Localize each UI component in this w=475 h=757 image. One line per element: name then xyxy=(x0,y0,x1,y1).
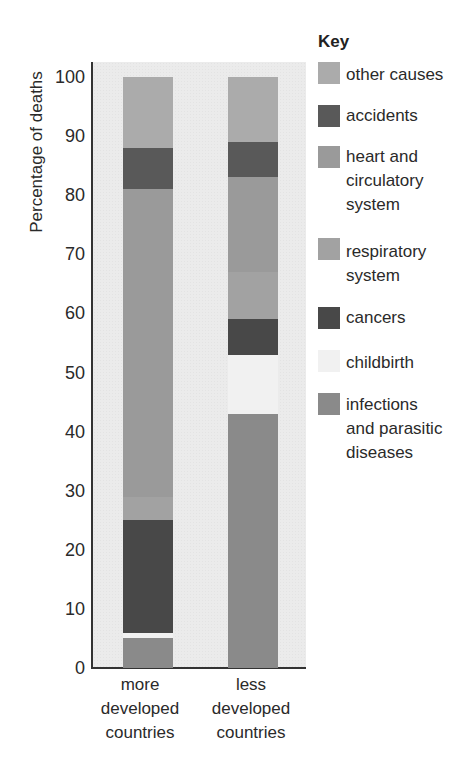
legend-swatch-accidents xyxy=(318,105,340,127)
y-tick-label: 100 xyxy=(45,67,85,87)
legend-swatch-other-causes xyxy=(318,62,340,84)
y-tick-label: 90 xyxy=(45,126,85,146)
bar-segment-childbirth xyxy=(228,355,278,414)
y-tick-label: 70 xyxy=(45,244,85,264)
legend-swatch-heart xyxy=(318,146,340,168)
y-tick-label: 50 xyxy=(45,363,85,383)
bar-segment-cancers xyxy=(228,319,278,354)
x-label-less-developed: less developed countries xyxy=(196,673,306,745)
legend-swatch-infections xyxy=(318,393,340,415)
y-tick-label: 0 xyxy=(45,658,85,678)
bar-segment-childbirth xyxy=(123,633,173,639)
y-tick-label: 80 xyxy=(45,185,85,205)
bar-segment-respiratory-system xyxy=(228,272,278,319)
bar-segment-heart-and-circulatory-system xyxy=(228,177,278,272)
y-axis-line xyxy=(91,62,93,669)
legend-label-heart: heart and circulatory system xyxy=(346,145,423,217)
legend-swatch-childbirth xyxy=(318,350,340,372)
y-tick-label: 60 xyxy=(45,303,85,323)
legend-swatch-respiratory xyxy=(318,238,340,260)
bar-segment-cancers xyxy=(123,520,173,632)
y-tick-label: 30 xyxy=(45,481,85,501)
legend-label-infections: infections and parasitic diseases xyxy=(346,393,442,465)
bar-segment-infections-and-parasitic-diseases xyxy=(228,414,278,668)
bar-segment-respiratory-system xyxy=(123,497,173,521)
legend-title: Key xyxy=(318,31,349,53)
legend-swatch-cancers xyxy=(318,307,340,329)
legend-label-cancers: cancers xyxy=(346,306,406,330)
legend-label-childbirth: childbirth xyxy=(346,351,414,375)
y-tick-label: 10 xyxy=(45,599,85,619)
legend-label-other-causes: other causes xyxy=(346,63,443,87)
y-tick-label: 20 xyxy=(45,540,85,560)
x-label-more-developed: more developed countries xyxy=(85,673,195,745)
legend-label-accidents: accidents xyxy=(346,104,418,128)
bar-segment-accidents xyxy=(123,148,173,189)
bar-segment-other-causes xyxy=(228,77,278,142)
bar-segment-heart-and-circulatory-system xyxy=(123,189,173,496)
y-tick-label: 40 xyxy=(45,422,85,442)
legend-label-respiratory: respiratory system xyxy=(346,240,426,288)
bar-segment-other-causes xyxy=(123,77,173,148)
bar-segment-infections-and-parasitic-diseases xyxy=(123,638,173,668)
bar-segment-accidents xyxy=(228,142,278,177)
